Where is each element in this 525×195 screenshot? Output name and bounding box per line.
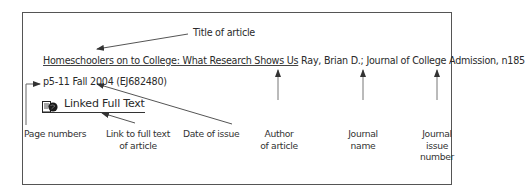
article-title-link[interactable]: Homeschoolers on to College: What Resear…: [43, 55, 298, 66]
article-author: Ray, Brian D.;: [301, 55, 363, 66]
callout-date-of-issue: Date of issue: [183, 128, 239, 140]
citation-meta-line: p5-11 Fall 2004 (EJ682480): [43, 76, 167, 87]
linked-full-text-label: Linked Full Text: [64, 97, 145, 110]
callout-link-line2: of article: [102, 140, 174, 152]
page-numbers: p5-11: [43, 76, 70, 87]
callout-journal-name: Journal name: [343, 128, 383, 151]
callout-link-line1: Link to full text: [102, 128, 174, 140]
journal-issue: n185: [501, 55, 524, 66]
document-globe-icon: [42, 98, 58, 109]
linked-full-text-link[interactable]: Linked Full Text: [42, 97, 145, 113]
callout-title-label: Title of article: [193, 27, 255, 38]
citation-title-line: Homeschoolers on to College: What Resear…: [43, 55, 525, 66]
journal-name: Journal of College Admission,: [366, 55, 498, 66]
callout-issue-line3: number: [416, 151, 458, 163]
callout-link-to-full-text: Link to full text of article: [102, 128, 174, 151]
callout-author: Author of article: [256, 128, 302, 151]
callout-journal-line2: name: [343, 140, 383, 152]
callout-journal-issue-number: Journal issue number: [416, 128, 458, 163]
callout-page-numbers: Page numbers: [24, 128, 86, 140]
callout-author-line1: Author: [256, 128, 302, 140]
issue-date: Fall 2004: [72, 76, 113, 87]
callout-issue-line1: Journal: [416, 128, 458, 140]
accession-number: (EJ682480): [116, 76, 167, 87]
callout-author-line2: of article: [256, 140, 302, 152]
callout-issue-line2: issue: [416, 140, 458, 152]
callout-journal-line1: Journal: [343, 128, 383, 140]
